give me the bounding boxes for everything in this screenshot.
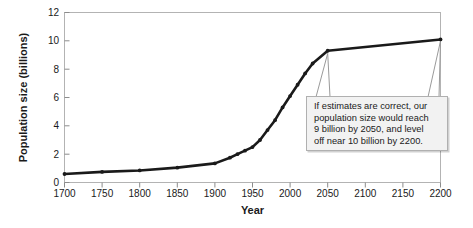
data-point: [288, 94, 292, 98]
data-point: [326, 49, 330, 53]
data-point: [138, 169, 142, 173]
data-point: [273, 118, 277, 122]
x-tick-label: 1850: [166, 188, 189, 199]
y-tick-label: 6: [53, 92, 59, 103]
x-tick-label: 1750: [91, 188, 114, 199]
y-tick-label: 8: [53, 64, 59, 75]
data-point: [236, 152, 240, 156]
forecast-callout-text: If estimates are correct, our population…: [314, 101, 441, 147]
x-tick-label: 2150: [392, 188, 415, 199]
y-tick-label: 12: [48, 7, 60, 18]
x-tick-label: 1900: [204, 188, 227, 199]
y-axis-title: Population size (billions): [17, 32, 29, 162]
data-point: [266, 128, 270, 132]
x-tick-label: 1800: [129, 188, 152, 199]
data-point: [251, 145, 255, 149]
x-tick-label: 1700: [53, 188, 76, 199]
data-point: [213, 161, 217, 165]
data-point: [243, 149, 247, 153]
x-axis-tick-labels: 1700 1750 1800 1850 1900 1950 2000 2050 …: [53, 188, 452, 199]
y-tick-label: 10: [48, 35, 60, 46]
y-tick-label: 4: [53, 120, 59, 131]
x-tick-label: 2050: [317, 188, 340, 199]
y-tick-label: 2: [53, 149, 59, 160]
data-point: [258, 138, 262, 142]
y-axis-tick-labels: 0 2 4 6 8 10 12: [48, 7, 60, 188]
data-point: [63, 172, 67, 176]
data-point: [228, 156, 232, 160]
y-tick-label: 0: [53, 177, 59, 188]
data-point: [303, 72, 307, 76]
y-axis-ticks: [65, 13, 70, 183]
x-tick-label: 1950: [241, 188, 264, 199]
x-tick-label: 2000: [279, 188, 302, 199]
data-point: [175, 166, 179, 170]
x-tick-label: 2100: [354, 188, 377, 199]
data-point: [311, 62, 315, 66]
x-axis-ticks: [65, 183, 441, 188]
forecast-callout-box: If estimates are correct, our population…: [306, 96, 448, 151]
population-growth-chart: 0 2 4 6 8 10 12 1700 1750 1800 1850 1900…: [0, 0, 473, 228]
data-point: [281, 106, 285, 110]
data-point: [439, 38, 443, 42]
data-point: [100, 170, 104, 174]
x-axis-title: Year: [241, 204, 265, 216]
x-tick-label: 2200: [429, 188, 452, 199]
data-point: [296, 83, 300, 87]
